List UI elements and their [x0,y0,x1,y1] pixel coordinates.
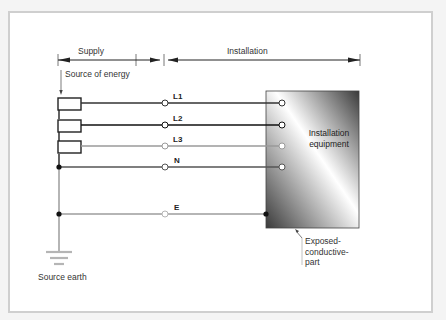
conductor-label-l3: L3 [173,136,182,144]
source-winding-l1 [58,98,81,110]
junction-dot-icon [56,164,61,169]
arrow-down-icon [59,90,62,95]
conductor-label-n: N [174,157,180,165]
conductor-l3 [81,143,285,149]
arrowhead-right-icon [348,58,360,63]
arrowhead-left-icon [58,58,70,63]
exposed-conductive-part-leader [295,229,302,265]
equipment-label-line2: equipment [296,139,362,150]
ecp-line3: part [305,257,348,268]
source-of-energy-pointer [59,70,62,95]
conductor-e [56,211,268,217]
supply-label: Supply [78,47,104,56]
equipment-label-line1: Installation [296,128,362,139]
conductor-l1 [81,100,285,106]
conductor-l2 [81,122,285,128]
conductor-label-l1: L1 [173,93,182,101]
source-winding-l3 [58,141,81,153]
ecp-line2: conductive- [305,247,348,258]
earth-ground-icon [46,252,72,264]
junction-dot-icon [56,211,61,216]
source-earth-label: Source earth [38,273,87,282]
conductor-label-e: E [174,204,179,212]
source-winding-l2 [58,120,81,132]
conductor-label-l2: L2 [173,115,182,123]
exposed-conductive-part-label: Exposed- conductive- part [305,236,348,268]
arrowhead-right-icon [150,58,160,63]
installation-equipment-box [266,91,359,228]
arrowhead-left-icon [168,58,178,63]
conductor-n [56,164,285,170]
junction-dot-icon [263,211,268,216]
source-of-energy-label: Source of energy [65,70,130,79]
installation-label: Installation [227,47,268,56]
installation-equipment-label: Installation equipment [296,128,362,150]
ecp-line1: Exposed- [305,236,348,247]
